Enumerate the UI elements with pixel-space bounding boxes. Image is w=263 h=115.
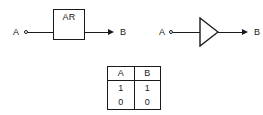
truth-table-cell-a-1: 0 <box>108 95 135 110</box>
truth-table-cell-a-0: 1 <box>108 81 135 96</box>
block-diagram-output-arrowhead <box>108 29 114 35</box>
buffer-diagram-output-label: B <box>254 28 260 37</box>
truth-table-header-row: A B <box>108 67 161 81</box>
block-diagram-output-wire <box>85 32 110 33</box>
buffer-diagram-input-wire <box>173 32 200 33</box>
block-diagram-block-label: AR <box>54 12 84 22</box>
block-diagram-input-wire <box>28 32 54 33</box>
table-row: 1 1 <box>108 81 161 96</box>
truth-table-header-a: A <box>108 67 135 81</box>
truth-table-header-b: B <box>134 67 161 81</box>
buffer-diagram-input-label: A <box>159 28 165 37</box>
diagram-canvas: A AR B A B A B 1 <box>0 0 263 115</box>
block-diagram-output-label: B <box>120 28 126 37</box>
buffer-diagram-output-arrowhead <box>242 29 248 35</box>
table-row: 0 0 <box>108 95 161 110</box>
truth-table: A B 1 1 0 0 <box>107 66 161 110</box>
truth-table-cell-b-0: 1 <box>134 81 161 96</box>
buffer-diagram-output-wire <box>218 32 244 33</box>
buffer-triangle-icon[interactable] <box>199 17 219 47</box>
block-diagram-block[interactable]: AR <box>53 9 85 40</box>
truth-table-cell-b-1: 0 <box>134 95 161 110</box>
block-diagram-input-label: A <box>13 28 19 37</box>
